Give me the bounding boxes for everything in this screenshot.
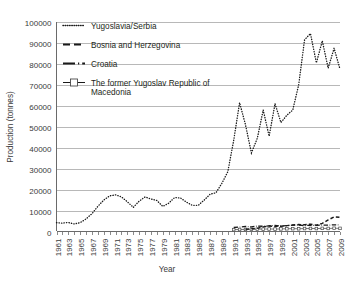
y-axis-title: Production (tonnes) xyxy=(6,91,15,163)
x-tick-label: 1991 xyxy=(231,238,240,256)
x-axis-tickmarks xyxy=(58,232,341,236)
series-marker-macedonia xyxy=(274,228,277,231)
x-tick-label: 1963 xyxy=(65,238,74,256)
x-tick-label: 1989 xyxy=(219,238,228,256)
x-tick-label: 1995 xyxy=(254,238,263,256)
series-marker-macedonia xyxy=(232,228,235,231)
y-tick-label: 30000 xyxy=(29,166,52,175)
x-tick-label: 1975 xyxy=(136,238,145,256)
y-tick-label: 90000 xyxy=(29,40,52,49)
series-marker-macedonia xyxy=(327,227,330,230)
x-tick-label: 1971 xyxy=(113,238,122,256)
series-marker-macedonia xyxy=(268,228,271,231)
legend-label-macedonia-line2: Macedonia xyxy=(91,88,132,97)
y-tick-label: 80000 xyxy=(29,61,52,70)
x-axis-tick-labels: 1961196319651967196919711973197519771979… xyxy=(54,238,346,256)
y-tick-label: 20000 xyxy=(29,187,52,196)
series-marker-macedonia xyxy=(297,227,300,230)
x-tick-label: 2001 xyxy=(290,238,299,256)
legend-marker-macedonia-square xyxy=(71,79,78,86)
series-marker-macedonia xyxy=(291,227,294,230)
x-tick-label: 1979 xyxy=(160,238,169,256)
x-axis-title: Year xyxy=(159,265,176,274)
series-marker-macedonia xyxy=(238,228,241,231)
series-marker-macedonia xyxy=(333,227,336,230)
x-tick-label: 1967 xyxy=(89,238,98,256)
legend-label-croatia: Croatia xyxy=(91,60,118,69)
series-marker-macedonia xyxy=(303,227,306,230)
x-tick-label: 2005 xyxy=(313,238,322,256)
legend-label-macedonia-line1: The former Yugoslav Republic of xyxy=(91,79,210,88)
series-marker-macedonia xyxy=(262,228,265,231)
x-tick-label: 1969 xyxy=(101,238,110,256)
x-tick-label: 1997 xyxy=(266,238,275,256)
series-marker-macedonia xyxy=(309,227,312,230)
series-marker-macedonia xyxy=(315,227,318,230)
x-tick-label: 2009 xyxy=(337,238,346,256)
x-tick-label: 1973 xyxy=(124,238,133,256)
x-tick-label: 1987 xyxy=(207,238,216,256)
x-tick-label: 1999 xyxy=(278,238,287,256)
y-tick-label: 40000 xyxy=(29,145,52,154)
series-marker-macedonia xyxy=(286,227,289,230)
y-tick-label: 100000 xyxy=(25,19,52,28)
production-line-chart: 1000009000080000700006000050000400003000… xyxy=(0,0,349,284)
x-tick-label: 1981 xyxy=(172,238,181,256)
x-tick-label: 1985 xyxy=(195,238,204,256)
series-marker-macedonia xyxy=(339,227,342,230)
series-marker-macedonia xyxy=(280,228,283,231)
chart-container: 1000009000080000700006000050000400003000… xyxy=(0,0,349,284)
x-tick-label: 2003 xyxy=(302,238,311,256)
y-tick-label: 60000 xyxy=(29,103,52,112)
gridlines-group xyxy=(57,23,341,212)
x-tick-label: 1993 xyxy=(243,238,252,256)
y-tick-label: 0 xyxy=(47,229,52,238)
x-tick-label: 1977 xyxy=(148,238,157,256)
x-tick-label: 1961 xyxy=(54,238,63,256)
x-tick-label: 1965 xyxy=(77,238,86,256)
series-marker-macedonia xyxy=(321,227,324,230)
y-tick-label: 50000 xyxy=(29,124,52,133)
legend-label-yugoslavia: Yugoslavia/Serbia xyxy=(91,22,157,31)
y-tick-label: 70000 xyxy=(29,82,52,91)
legend-label-bosnia: Bosnia and Herzegovina xyxy=(91,41,181,50)
x-tick-label: 2007 xyxy=(325,238,334,256)
y-axis-tick-labels: 1000009000080000700006000050000400003000… xyxy=(25,19,52,238)
y-tick-label: 10000 xyxy=(29,208,52,217)
x-tick-label: 1983 xyxy=(183,238,192,256)
